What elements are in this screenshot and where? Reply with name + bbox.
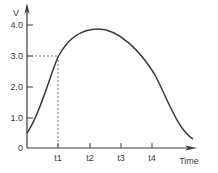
- x-tick-label-t4: t4: [148, 153, 156, 163]
- x-tick-label-t1: t1: [54, 153, 62, 163]
- x-ticks: [58, 143, 152, 148]
- x-tick-label-t2: t2: [86, 153, 94, 163]
- x-tick-label-t3: t3: [117, 153, 125, 163]
- y-tick-label-1: 1.0: [10, 113, 23, 123]
- y-axis-label: V: [13, 8, 19, 18]
- y-tick-label-0: 0: [18, 143, 23, 153]
- x-axis-label: Time: [179, 156, 199, 166]
- y-tick-label-2: 2.0: [10, 82, 23, 92]
- y-tick-label-4: 4.0: [10, 20, 23, 30]
- data-curve: [27, 29, 193, 139]
- chart: V 4.0 3.0 2.0 1.0 0 t1 t2 t3 t4 Time: [0, 0, 218, 173]
- y-ticks: [27, 25, 33, 118]
- y-tick-label-3: 3.0: [10, 51, 23, 61]
